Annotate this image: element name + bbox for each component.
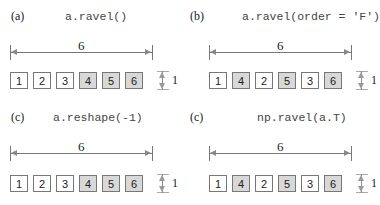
array-cell: 1 — [10, 72, 28, 89]
array-cell: 6 — [125, 175, 143, 192]
array-cells: 1 4 2 5 3 6 — [209, 175, 342, 192]
height-label: 1 — [172, 176, 178, 191]
arrow-right-icon — [344, 49, 350, 55]
array-cell: 3 — [301, 72, 319, 89]
array-cells: 1 2 3 4 5 6 — [10, 175, 143, 192]
arrow-down-icon — [358, 186, 364, 192]
panel-label: (a) — [11, 9, 24, 24]
panel-label: (c) — [190, 110, 203, 125]
array-cell: 3 — [56, 175, 74, 192]
array-cell: 5 — [102, 175, 120, 192]
array-cells: 1 4 2 5 3 6 — [209, 72, 342, 89]
arrow-down-icon — [159, 83, 165, 89]
array-cell: 2 — [255, 175, 273, 192]
height-label: 1 — [371, 73, 377, 88]
arrow-right-icon — [145, 49, 151, 55]
arrow-left-icon — [11, 49, 17, 55]
code-expression: a.ravel() — [65, 10, 127, 23]
dim-tick-right — [152, 146, 153, 161]
array-cell: 4 — [79, 175, 97, 192]
length-dimension-line — [10, 153, 152, 154]
panel-b: (b) a.ravel(order = 'F') 6 1 4 2 5 3 6 1 — [189, 0, 378, 100]
array-cell: 1 — [10, 175, 28, 192]
arrow-right-icon — [145, 150, 151, 156]
arrow-left-icon — [210, 49, 216, 55]
array-cell: 2 — [33, 72, 51, 89]
height-label: 1 — [371, 176, 377, 191]
panel-label: (b) — [190, 9, 204, 24]
panel-c: (c) a.reshape(-1) 6 1 2 3 4 5 6 1 — [0, 103, 189, 203]
array-cell: 2 — [33, 175, 51, 192]
panel-a: (a) a.ravel() 6 1 2 3 4 5 6 1 — [0, 0, 189, 100]
arrow-up-icon — [159, 175, 165, 181]
array-cell: 6 — [324, 72, 342, 89]
array-cell: 6 — [324, 175, 342, 192]
dim-tick-right — [351, 146, 352, 161]
arrow-left-icon — [210, 150, 216, 156]
height-label: 1 — [172, 73, 178, 88]
array-cell: 5 — [278, 72, 296, 89]
arrow-right-icon — [344, 150, 350, 156]
arrow-up-icon — [358, 72, 364, 78]
arrow-left-icon — [11, 150, 17, 156]
dim-tick-right — [351, 45, 352, 60]
arrow-up-icon — [159, 72, 165, 78]
arrow-down-icon — [358, 83, 364, 89]
array-cells: 1 2 3 4 5 6 — [10, 72, 143, 89]
array-cell: 6 — [125, 72, 143, 89]
length-dimension-line — [10, 52, 152, 53]
length-dimension-line — [209, 153, 351, 154]
length-dimension-line — [209, 52, 351, 53]
array-cell: 1 — [209, 72, 227, 89]
code-expression: a.reshape(-1) — [53, 111, 143, 124]
code-expression: a.ravel(order = 'F') — [242, 10, 380, 23]
arrow-up-icon — [358, 175, 364, 181]
array-cell: 1 — [209, 175, 227, 192]
array-cell: 2 — [255, 72, 273, 89]
array-cell: 5 — [102, 72, 120, 89]
dim-tick-right — [152, 45, 153, 60]
array-cell: 4 — [79, 72, 97, 89]
array-cell: 4 — [232, 175, 250, 192]
panel-label: (c) — [11, 110, 24, 125]
array-cell: 4 — [232, 72, 250, 89]
array-cell: 3 — [56, 72, 74, 89]
array-cell: 5 — [278, 175, 296, 192]
code-expression: np.ravel(a.T) — [257, 111, 347, 124]
array-cell: 3 — [301, 175, 319, 192]
arrow-down-icon — [159, 186, 165, 192]
panel-d: (c) np.ravel(a.T) 6 1 4 2 5 3 6 1 — [189, 103, 378, 203]
